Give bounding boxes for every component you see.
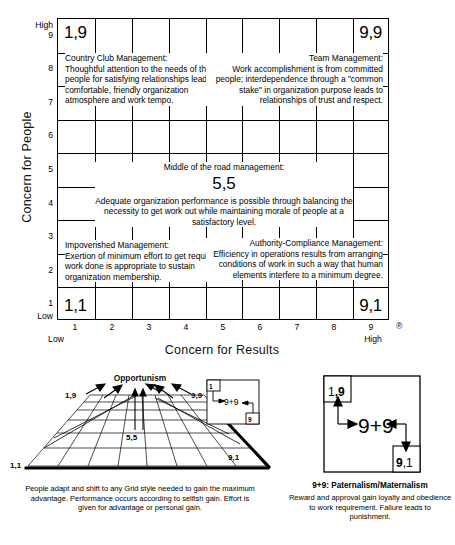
- paternalism-title: 9+9: Paternalism/Maternalism: [288, 480, 452, 493]
- x-axis-tick-5: 5: [211, 322, 235, 332]
- opportunism-label-9-1: 9,1: [228, 453, 240, 462]
- x-axis-ticks: 123456789: [57, 322, 389, 336]
- opportunism-caption: People adapt and shift to any Grid style…: [8, 484, 272, 513]
- opportunism-perspective-grid: 1,9 9,9 5,5 1,1 9,1 1 9 9+9: [8, 372, 272, 484]
- paternalism-diagram: 1,9 9,1 9+9: [288, 372, 452, 480]
- y-axis-tick-5: 5: [29, 164, 53, 174]
- paternalism-label-9plus9: 9+9: [358, 414, 394, 437]
- opportunism-label-5-5: 5,5: [126, 433, 138, 442]
- gridline-horizontal: [58, 287, 388, 288]
- corner-label-9-1: 9,1: [359, 296, 382, 316]
- x-axis-tick-9: 9: [359, 322, 383, 332]
- opportunism-inset-label-9: 9: [248, 416, 252, 423]
- y-axis-ticks: 987654321: [20, 18, 53, 320]
- y-axis-tick-2: 2: [29, 265, 53, 275]
- opportunism-inset-label-9plus9: 9+9: [224, 397, 239, 407]
- x-axis-title: Concern for Results: [57, 343, 387, 357]
- paternalism-caption-block: 9+9: Paternalism/Maternalism Reward and …: [288, 480, 452, 522]
- y-axis-tick-8: 8: [29, 63, 53, 73]
- corner-label-9-9: 9,9: [359, 23, 382, 43]
- style-body-country-club: Thoughtful attention to the needs of the…: [65, 64, 227, 106]
- style-number-middle-of-the-road: 5,5: [95, 173, 353, 196]
- y-axis-tick-1: 1: [29, 298, 53, 308]
- style-description-authority-compliance: Authority-Compliance Management: Efficie…: [206, 238, 383, 280]
- paternalism-label-1-9: 1,9: [328, 385, 345, 399]
- style-description-team: Team Management: Work accomplishment is …: [206, 53, 383, 106]
- gridline-horizontal: [58, 120, 388, 121]
- style-title-middle-of-the-road: Middle of the road management:: [95, 162, 353, 173]
- y-axis-tick-3: 3: [29, 231, 53, 241]
- x-axis-tick-3: 3: [137, 322, 161, 332]
- style-body-middle-of-the-road: Adequate organization performance is pos…: [95, 196, 353, 228]
- x-axis-tick-7: 7: [285, 322, 309, 332]
- corner-label-1-1: 1,1: [64, 296, 87, 316]
- paternalism-caption: Reward and approval gain loyalty and obe…: [289, 493, 451, 521]
- x-axis-tick-6: 6: [248, 322, 272, 332]
- opportunism-label-1-1: 1,1: [10, 461, 22, 470]
- opportunism-label-1-9: 1,9: [65, 391, 77, 400]
- x-axis-tick-2: 2: [100, 322, 124, 332]
- style-title-impoverished: Impoverished Management:: [65, 240, 228, 251]
- paternalism-label-9-1: 9,1: [396, 456, 413, 470]
- registered-trademark-symbol: ®: [396, 321, 403, 331]
- y-axis-tick-7: 7: [29, 97, 53, 107]
- opportunism-label-9-9: 9,9: [191, 391, 203, 400]
- style-description-impoverished: Impoverished Management: Exertion of min…: [65, 240, 228, 282]
- style-description-middle-of-the-road: Middle of the road management: 5,5 Adequ…: [95, 162, 353, 227]
- style-description-country-club: Country Club Management: Thoughtful atte…: [65, 53, 228, 106]
- y-axis-tick-4: 4: [29, 198, 53, 208]
- managerial-grid-section: Concern for People Concern for Results H…: [0, 0, 455, 365]
- style-title-country-club: Country Club Management:: [65, 53, 228, 64]
- style-title-authority-compliance: Authority-Compliance Management:: [206, 238, 383, 249]
- style-title-team: Team Management:: [206, 53, 383, 64]
- gridline-horizontal: [58, 153, 388, 154]
- paternalism-panel: 1,9 9,1 9+9 9+9: Paternalism/Maternalism…: [288, 372, 452, 540]
- y-axis-tick-6: 6: [29, 130, 53, 140]
- x-axis-tick-8: 8: [322, 322, 346, 332]
- style-body-impoverished: Exertion of minimum effort to get requir…: [65, 251, 219, 282]
- x-axis-tick-4: 4: [174, 322, 198, 332]
- style-body-team: Work accomplishment is from committed pe…: [216, 64, 383, 106]
- style-body-authority-compliance: Efficiency in operations results from ar…: [213, 249, 383, 280]
- grid-plot-area: 1,9 9,9 1,1 9,1 Country Club Management:…: [57, 18, 389, 320]
- opportunism-title: Opportunism: [8, 373, 272, 383]
- corner-label-1-9: 1,9: [64, 23, 87, 43]
- opportunism-panel: Opportunism: [8, 372, 272, 540]
- y-axis-tick-9: 9: [29, 30, 53, 40]
- opportunism-inset-label-1: 1: [209, 383, 213, 390]
- x-axis-tick-1: 1: [63, 322, 87, 332]
